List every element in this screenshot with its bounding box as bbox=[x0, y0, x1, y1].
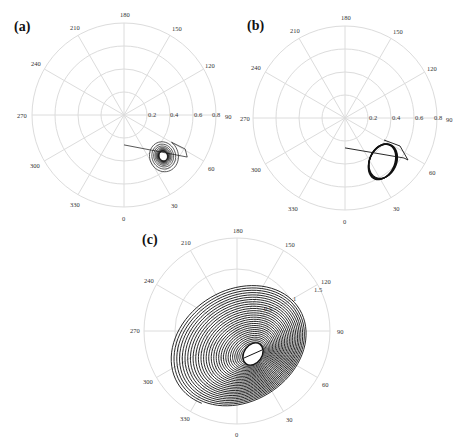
polar-plot-a: (a) 180 150 120 90 60 30 0 330 300 270 2… bbox=[14, 11, 232, 222]
tick-210: 210 bbox=[290, 27, 300, 34]
tick-60: 60 bbox=[322, 381, 329, 388]
tick-270: 270 bbox=[130, 327, 140, 334]
panel-label-b: (b) bbox=[247, 18, 264, 34]
polar-plot-c: (c) 180 150 120 90 60 30 0 330 300 270 2… bbox=[130, 227, 344, 438]
tick-300: 300 bbox=[30, 162, 40, 169]
tick-30: 30 bbox=[171, 202, 178, 209]
figure: (a) 180 150 120 90 60 30 0 330 300 270 2… bbox=[0, 0, 464, 446]
tick-330: 330 bbox=[180, 415, 190, 422]
panel-label-a: (a) bbox=[14, 19, 31, 35]
trajectory-c bbox=[171, 286, 306, 406]
tick-330: 330 bbox=[70, 201, 80, 208]
tick-90: 90 bbox=[446, 116, 453, 123]
panel-label-c: (c) bbox=[142, 232, 158, 248]
tick-90: 90 bbox=[225, 113, 232, 120]
tick-120: 120 bbox=[205, 62, 215, 69]
rtick-0-6: 0.6 bbox=[415, 114, 424, 121]
rtick-0-2: 0.2 bbox=[148, 111, 156, 118]
rtick-0-2: 0.2 bbox=[369, 114, 377, 121]
tick-240: 240 bbox=[251, 64, 261, 71]
rtick-0-4: 0.4 bbox=[170, 111, 179, 118]
tick-30: 30 bbox=[393, 205, 400, 212]
tick-90: 90 bbox=[337, 328, 344, 335]
rtick-0-6: 0.6 bbox=[194, 111, 203, 118]
tick-120: 120 bbox=[427, 65, 437, 72]
tick-150: 150 bbox=[172, 25, 182, 32]
polar-grid-a bbox=[32, 23, 216, 207]
tick-270: 270 bbox=[240, 115, 250, 122]
tick-300: 300 bbox=[251, 166, 261, 173]
tick-0: 0 bbox=[122, 215, 125, 222]
tick-150: 150 bbox=[393, 28, 403, 35]
tick-0: 0 bbox=[343, 218, 346, 225]
tick-210: 210 bbox=[181, 239, 191, 246]
rtick-0-8: 0.8 bbox=[434, 114, 442, 121]
tick-240: 240 bbox=[31, 60, 41, 67]
tick-210: 210 bbox=[70, 24, 80, 31]
tick-240: 240 bbox=[144, 277, 154, 284]
tick-120: 120 bbox=[321, 278, 331, 285]
tick-60: 60 bbox=[429, 169, 436, 176]
rtick-0-8: 0.8 bbox=[212, 111, 220, 118]
tick-150: 150 bbox=[285, 241, 295, 248]
rtick-0-4: 0.4 bbox=[392, 114, 401, 121]
tick-180: 180 bbox=[120, 11, 130, 18]
tick-30: 30 bbox=[286, 416, 293, 423]
tick-180: 180 bbox=[233, 227, 243, 234]
tick-300: 300 bbox=[143, 378, 153, 385]
tick-180: 180 bbox=[341, 14, 351, 21]
tick-330: 330 bbox=[288, 205, 298, 212]
tick-270: 270 bbox=[17, 112, 27, 119]
trajectory-b bbox=[345, 140, 408, 180]
rtick-1-5: 1.5 bbox=[314, 286, 322, 293]
tick-60: 60 bbox=[208, 165, 215, 172]
tick-0: 0 bbox=[235, 431, 238, 438]
polar-plot-b: (b) 180 150 120 90 60 30 0 330 300 270 2… bbox=[240, 14, 453, 225]
polar-grid-b bbox=[253, 26, 437, 210]
